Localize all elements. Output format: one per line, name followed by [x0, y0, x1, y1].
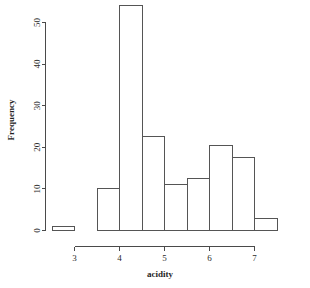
- y-axis-title: Frequency: [6, 99, 16, 140]
- histogram-bar: [97, 189, 120, 231]
- plot-canvas: 01020304050 34567 acidity Frequency: [0, 0, 310, 288]
- histogram-bar: [120, 6, 143, 231]
- histogram-bar: [255, 218, 278, 230]
- x-tick-label: 4: [117, 253, 122, 263]
- y-tick-label: 20: [32, 142, 42, 152]
- histogram-figure: 01020304050 34567 acidity Frequency: [0, 0, 310, 288]
- histogram-bar: [187, 179, 210, 231]
- x-tick-label: 7: [252, 253, 257, 263]
- x-tick-labels: 34567: [72, 253, 257, 263]
- y-tick-label: 30: [32, 101, 42, 111]
- y-tick-label: 0: [32, 228, 42, 233]
- x-axis: [75, 247, 255, 251]
- y-tick-label: 50: [32, 18, 42, 28]
- y-axis: [42, 23, 46, 231]
- histogram-bar: [165, 185, 188, 231]
- histogram-bar: [210, 145, 233, 230]
- y-tick-label: 10: [32, 184, 42, 194]
- y-tick-labels: 01020304050: [32, 18, 42, 233]
- bars-group: [52, 6, 277, 231]
- x-tick-label: 5: [162, 253, 167, 263]
- x-axis-title: acidity: [147, 269, 173, 279]
- x-tick-label: 6: [207, 253, 212, 263]
- histogram-bar: [232, 158, 255, 231]
- histogram-bar: [52, 226, 75, 230]
- histogram-bar: [142, 137, 165, 231]
- y-tick-label: 40: [32, 59, 42, 69]
- x-tick-label: 3: [72, 253, 77, 263]
